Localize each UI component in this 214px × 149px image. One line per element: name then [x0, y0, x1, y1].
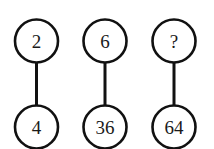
- bottom-node-label-2: 36: [96, 117, 115, 138]
- bottom-node-label-3: 64: [165, 117, 185, 138]
- puzzle-diagram-canvas: 2 4 6 36 ? 64: [0, 0, 214, 149]
- top-node-label-1: 2: [32, 31, 42, 52]
- node-pair-3: ? 64: [153, 20, 196, 149]
- node-pair-1: 2 4: [15, 20, 58, 149]
- bottom-node-label-1: 4: [32, 117, 42, 138]
- node-pair-2: 6 36: [84, 20, 127, 149]
- top-node-label-2: 6: [100, 31, 110, 52]
- top-node-label-3: ?: [170, 31, 178, 52]
- node-link-diagram: 2 4 6 36 ? 64: [0, 0, 214, 149]
